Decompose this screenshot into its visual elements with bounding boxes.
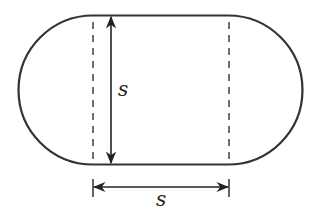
- vertical-dimension-label: s: [118, 77, 128, 101]
- horizontal-dimension-label: s: [156, 187, 166, 211]
- stadium-outline: [19, 16, 303, 165]
- stadium-diagram: s s: [0, 0, 313, 211]
